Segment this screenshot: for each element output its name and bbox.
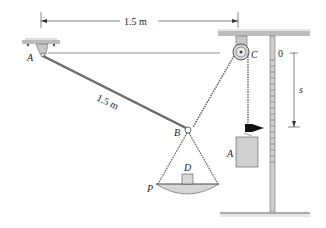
pan-rope-right xyxy=(189,133,218,184)
ceiling-right xyxy=(218,29,310,36)
label-s: s xyxy=(299,84,303,95)
horizontal-dimension-label: 1.5 m xyxy=(124,16,147,27)
support-a: A xyxy=(22,38,60,63)
label-zero: 0 xyxy=(278,48,283,59)
label-b: B xyxy=(174,127,180,138)
ring-b: B xyxy=(174,127,191,138)
pan-p: P xyxy=(146,183,219,194)
pulley-diagram: 1.5 m A 1.5 m C xyxy=(0,0,326,228)
horizontal-dimension: 1.5 m xyxy=(41,12,238,28)
label-a-support: A xyxy=(26,52,34,63)
rod-ab: 1.5 m xyxy=(43,56,190,130)
rope-cb xyxy=(193,56,234,127)
weight-a: A xyxy=(226,124,264,167)
s-dimension: s xyxy=(288,53,303,127)
scale-post: 0 xyxy=(270,36,283,212)
label-a-weight: A xyxy=(226,148,234,159)
label-d: D xyxy=(183,162,192,173)
floor xyxy=(220,212,310,217)
label-p: P xyxy=(146,183,153,194)
label-c: C xyxy=(251,49,258,60)
block-d: D xyxy=(182,162,193,184)
pulley-c: C xyxy=(233,36,258,60)
rod-length-label: 1.5 m xyxy=(95,92,120,112)
diagram-canvas: 1.5 m A 1.5 m C xyxy=(0,0,326,228)
